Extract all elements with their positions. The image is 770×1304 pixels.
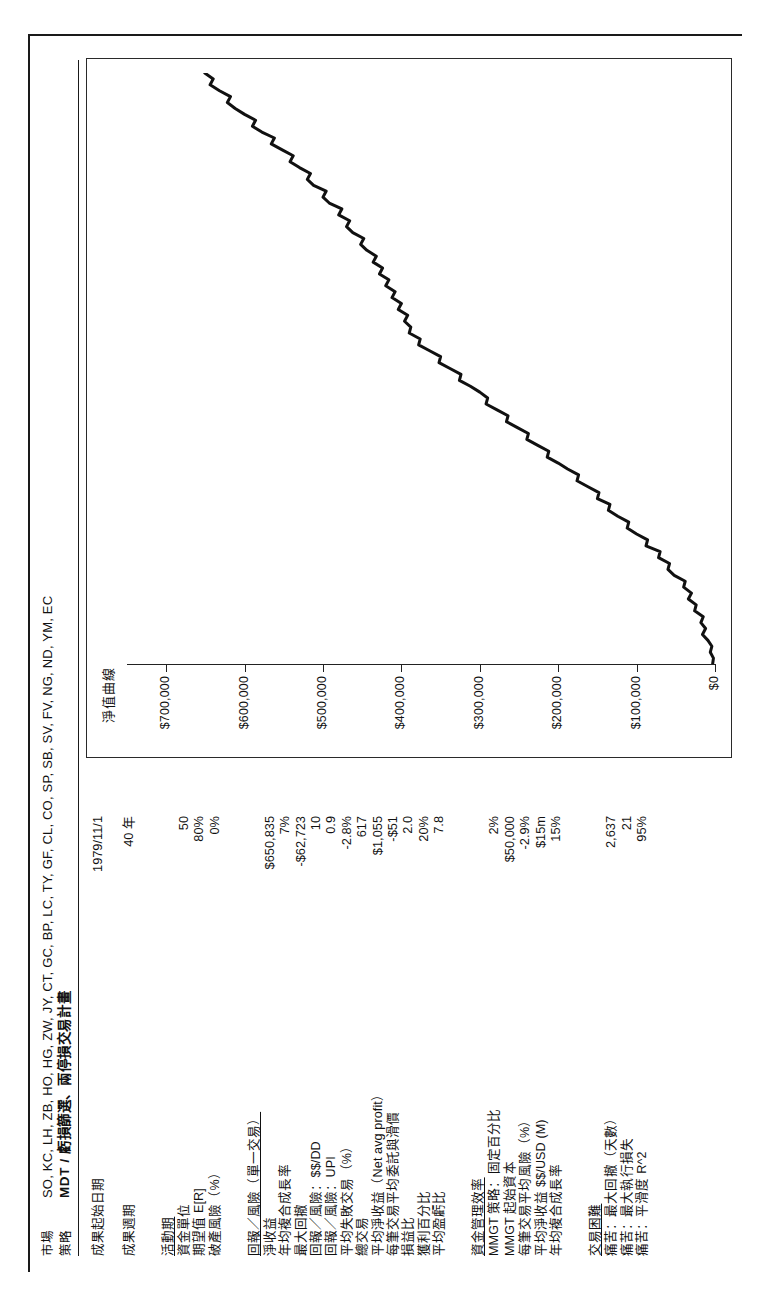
stat-row: 獲利百分比 20% — [416, 804, 431, 1256]
stat-value: 10 — [308, 816, 324, 956]
stat-value: 617 — [354, 816, 370, 956]
stat-value: 15% — [548, 816, 564, 956]
y-axis-tick — [323, 664, 324, 672]
statistics-panel: 成果起始日期 1979/11/1 成果週期 40 年 活動期 — [90, 804, 649, 1256]
stat-label: 每筆交易平均風險（%） — [518, 956, 534, 1256]
header-row-strategy: 策略 MDT / 虧損篩選、兩停損交易計畫 — [57, 56, 74, 1256]
strategy-label: 策略 — [59, 1198, 75, 1256]
stat-value: 1979/11/1 — [90, 816, 106, 956]
stat-row: 痛苦：平滑度 R^2 95% — [634, 804, 649, 1256]
stat-group-summary: 成果起始日期 1979/11/1 成果週期 40 年 — [90, 804, 136, 1256]
stat-row: 總交易 617 — [354, 804, 369, 1256]
stat-label: 成果週期 — [122, 956, 138, 1256]
stat-label: 回報／風險：UPI — [324, 956, 340, 1256]
stat-label: 淨收益 — [263, 956, 279, 1256]
rotated-page-wrapper: 市場 SO, KC, LH, ZB, HO, HG, ZW, JY, CT, G… — [30, 36, 744, 1274]
y-axis-tick-label: $400,000 — [394, 676, 410, 729]
stat-value: $50,000 — [502, 816, 518, 956]
stat-spacer — [145, 804, 160, 1256]
report-sheet: 市場 SO, KC, LH, ZB, HO, HG, ZW, JY, CT, G… — [28, 34, 742, 1272]
stat-label: 痛苦：最大執行損失 — [620, 956, 636, 1256]
stat-row-header: 資金管理效率 — [471, 804, 486, 1256]
stat-row: 損益比 2.0 — [400, 804, 415, 1256]
stat-row: 成果起始日期 1979/11/1 — [90, 804, 105, 1256]
stat-value: -$51 — [385, 816, 401, 956]
stat-value: 7.8 — [431, 816, 447, 956]
stat-section-title: 回報／風險（單一交易） — [247, 956, 263, 1256]
stat-label: 回報／風險：$$/DD — [309, 956, 325, 1256]
stat-group-position-sizing: 活動期 資金單位 50 期望值 E[R] 80% 破產風險（%） — [161, 804, 223, 1256]
stat-value: 0% — [207, 816, 223, 956]
report-canvas: 市場 SO, KC, LH, ZB, HO, HG, ZW, JY, CT, G… — [30, 36, 744, 1274]
stat-label: 痛苦：最大回撤（天數） — [604, 956, 620, 1256]
stat-section-title: 活動期 — [161, 956, 177, 1256]
y-axis-tick — [401, 664, 402, 672]
stat-value: 50 — [176, 816, 192, 956]
stat-label: 期望值 E[R] — [192, 956, 208, 1256]
stat-label: 最大回撤 — [294, 956, 310, 1256]
stat-label: 損益比 — [401, 956, 417, 1256]
stat-section-title: 交易困難 — [588, 956, 604, 1256]
y-axis-tick-label: $700,000 — [158, 676, 174, 729]
equity-curve-chart: 淨值曲線 $0$100,000$200,000$300,000$400,000$… — [86, 58, 732, 758]
stat-value: 95% — [634, 816, 650, 956]
stat-label: 年均複合成長率 — [549, 956, 565, 1256]
header-row-market: 市場 SO, KC, LH, ZB, HO, HG, ZW, JY, CT, G… — [40, 56, 56, 1256]
stat-value: -2.9% — [517, 816, 533, 956]
stat-row-header: 回報／風險（單一交易） — [247, 804, 262, 1256]
market-value: SO, KC, LH, ZB, HO, HG, ZW, JY, CT, GC, … — [40, 596, 56, 1198]
stat-value: 21 — [619, 816, 635, 956]
stat-spacer — [231, 804, 246, 1256]
stat-label: MMGT 策略：固定百分比 — [487, 956, 503, 1256]
y-axis-tick-label: $600,000 — [237, 676, 253, 729]
stat-value: -2.8% — [339, 816, 355, 956]
y-axis-tick — [245, 664, 246, 672]
market-label: 市場 — [41, 1198, 57, 1256]
stat-value: 0.9 — [323, 816, 339, 956]
stat-label: 破產風險（%） — [208, 956, 224, 1256]
stat-label: 資金單位 — [177, 956, 193, 1256]
stat-value: 7% — [277, 816, 293, 956]
stat-group-difficulty: 交易困難 痛苦：最大回撤（天數） 2,637 痛苦：最大執行損失 21 痛 — [588, 804, 650, 1256]
stat-row: 每筆交易平均委託與滑價 -$51 — [385, 804, 400, 1256]
stat-row: 回報／風險：$$/DD 10 — [308, 804, 323, 1256]
stat-row: 痛苦：最大執行損失 21 — [619, 804, 634, 1256]
stat-row: 年均複合成長率 15% — [548, 804, 563, 1256]
header-divider — [78, 60, 79, 1256]
stat-row: 平均淨收益 $$/USD (M) $15m — [533, 804, 548, 1256]
y-axis-tick — [637, 664, 638, 672]
stat-row: 痛苦：最大回撤（天數） 2,637 — [603, 804, 618, 1256]
stat-row: 資金單位 50 — [176, 804, 191, 1256]
stat-label: 平均淨收益（Net avg profit） — [371, 956, 387, 1256]
equity-curve-line — [127, 73, 715, 664]
stat-value: 2% — [486, 816, 502, 956]
stat-row: 平均盈虧比 7.8 — [431, 804, 446, 1256]
stat-spacer — [572, 804, 587, 1256]
stat-value: 2,637 — [603, 816, 619, 956]
stat-label: 平均淨收益 $$/USD (M) — [534, 956, 550, 1256]
stat-value: $650,835 — [262, 816, 278, 956]
y-axis-tick — [558, 664, 559, 672]
stat-row: 平均失敗交易（%） -2.8% — [339, 804, 354, 1256]
chart-plot-area: $0$100,000$200,000$300,000$400,000$500,0… — [127, 73, 715, 665]
stat-label: 平均失敗交易（%） — [340, 956, 356, 1256]
stat-row: 最大回撤 -$62,723 — [293, 804, 308, 1256]
stat-row: MMGT 起始資本 $50,000 — [502, 804, 517, 1256]
y-axis-tick-label: $200,000 — [550, 676, 566, 729]
stat-value: 40 年 — [121, 816, 137, 956]
y-axis-tick — [715, 664, 716, 672]
stat-row: 成果週期 40 年 — [121, 804, 136, 1256]
stat-label: 年均複合成長率 — [278, 956, 294, 1256]
stat-value: 20% — [416, 816, 432, 956]
stat-label: 總交易 — [355, 956, 371, 1256]
stat-row: 每筆交易平均風險（%） -2.9% — [517, 804, 532, 1256]
stat-row: 期望值 E[R] 80% — [191, 804, 206, 1256]
stat-value: 80% — [191, 816, 207, 956]
stat-row: 年均複合成長率 7% — [277, 804, 292, 1256]
y-axis-tick-label: $300,000 — [472, 676, 488, 729]
chart-title: 淨值曲線 — [101, 667, 117, 723]
stat-value: $15m — [533, 816, 549, 956]
stat-label: MMGT 起始資本 — [503, 956, 519, 1256]
stat-spacer — [105, 804, 120, 1256]
stat-row: 回報／風險：UPI 0.9 — [323, 804, 338, 1256]
